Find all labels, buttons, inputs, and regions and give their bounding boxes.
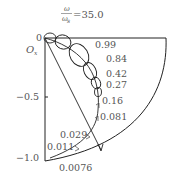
loop-3 xyxy=(65,40,93,70)
loop-centerline xyxy=(45,38,98,110)
trajectory-diagram: ω ω s =35.0 0 O x −0.5 −1.0 xyxy=(0,0,175,181)
origin-label-sub: x xyxy=(34,49,38,56)
diagram-title: ω ω s =35.0 xyxy=(61,5,104,24)
tick-label-neg-0-5: −0.5 xyxy=(16,91,39,102)
curve-label-0-0076: 0.0076 xyxy=(59,162,92,173)
leader-0-011 xyxy=(75,146,79,151)
title-denominator-sub: s xyxy=(67,17,70,24)
title-numerator: ω xyxy=(64,5,70,13)
tick-label-0: 0 xyxy=(36,32,42,43)
tick-label-neg-1-0: −1.0 xyxy=(16,152,39,163)
label-leaders xyxy=(75,103,99,151)
curve-labels: 0.99 0.84 0.42 0.27 0.16 0.081 0.029 0.0… xyxy=(47,39,127,173)
curve-label-0-011: 0.011 xyxy=(47,141,74,152)
curve-label-0-081: 0.081 xyxy=(100,111,127,122)
curve-label-0-99: 0.99 xyxy=(95,39,116,50)
axis-labels: 0 O x −0.5 −1.0 xyxy=(16,32,42,163)
arrow-head-icon xyxy=(98,144,103,151)
loop-4 xyxy=(81,60,99,81)
curve-label-0-42: 0.42 xyxy=(106,68,127,79)
curve-label-0-16: 0.16 xyxy=(102,95,123,106)
origin-label: O xyxy=(26,44,34,55)
curve-label-0-029: 0.029 xyxy=(60,129,87,140)
curve-label-0-27: 0.27 xyxy=(106,79,127,90)
curve-label-0-84: 0.84 xyxy=(106,53,127,64)
title-value: =35.0 xyxy=(73,9,104,20)
